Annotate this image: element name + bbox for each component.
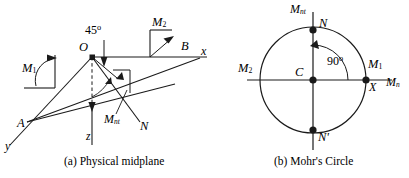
point-n-prime-marker (309, 126, 316, 133)
caption-panel-a: (a) Physical midplane (64, 155, 164, 167)
mohr-point-n-prime-label: N' (318, 131, 329, 144)
mohr-point-x-label: X (369, 81, 376, 93)
z-axis-arrowhead (88, 102, 95, 112)
mohr-moment-2-label: M2 (238, 62, 252, 75)
m2-arrowhead (164, 36, 175, 44)
mnt-arrowhead (116, 72, 124, 80)
mohr-moment-1-label: M1 (368, 58, 382, 71)
point-a-label: A (17, 117, 25, 130)
axis-z-label: z (86, 131, 90, 143)
point-o-label: O (79, 41, 88, 54)
axis-y-label: y (5, 140, 10, 152)
moment-nt-label: Mnt (104, 113, 120, 126)
mohr-horizontal-axis-label: Mn (386, 76, 400, 89)
figure-container: 45o M1 M2 O B x A y z Mnt N Mnt N M2 C 9… (0, 0, 409, 178)
figure-drawing (0, 0, 409, 178)
mohr-angle-90-arrowhead (310, 40, 319, 49)
moment-1-label: M1 (22, 62, 36, 75)
axis-x-label: x (201, 45, 206, 57)
caption-panel-b: (b) Mohr's Circle (274, 155, 353, 167)
point-n-marker (309, 26, 316, 33)
point-c-marker (309, 76, 316, 83)
normal-n-label: N (140, 120, 148, 133)
point-o-marker (90, 55, 96, 61)
moment-2-label: M2 (152, 16, 166, 29)
mohr-point-c-label: C (295, 66, 303, 79)
angle-45-label: 45o (85, 24, 101, 36)
physical-midplane-drawing (10, 30, 207, 145)
point-b-label: B (181, 40, 189, 53)
mohr-point-n-label: N (319, 17, 327, 30)
mohr-vertical-axis-label: Mnt (290, 3, 306, 16)
angle-45-arc-arrowhead (105, 77, 112, 84)
m1-curved-arrow (35, 59, 52, 86)
mohr-angle-90-label: 90o (327, 55, 343, 67)
